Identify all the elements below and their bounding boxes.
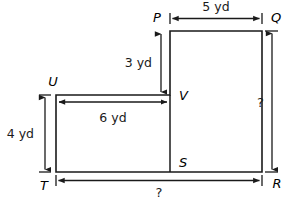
dimension-uv: 6 yd xyxy=(59,102,167,125)
dimension-label-tr: ? xyxy=(156,185,163,200)
dimension-pq: 5 yd xyxy=(170,0,262,24)
dimension-tr: ? xyxy=(56,175,262,200)
vertex-label-t: T xyxy=(40,178,49,193)
vertex-label-q: Q xyxy=(271,10,281,25)
vertex-label-p: P xyxy=(153,10,161,25)
dimension-label-pq: 5 yd xyxy=(202,0,229,14)
figure-canvas: P Q R S T U V 5 yd 3 yd 6 yd 4 xyxy=(0,0,289,202)
dimension-qr: ? xyxy=(257,31,278,172)
dimension-pv: 3 yd xyxy=(125,34,161,92)
dimension-label-uv: 6 yd xyxy=(99,110,126,125)
vertex-label-v: V xyxy=(179,88,189,103)
geometry-figure: P Q R S T U V 5 yd 3 yd 6 yd 4 xyxy=(0,0,289,202)
vertex-label-r: R xyxy=(272,176,281,191)
dimension-label-pv: 3 yd xyxy=(125,55,152,70)
vertex-label-u: U xyxy=(48,74,58,89)
vertex-label-s: S xyxy=(179,155,187,170)
dimension-ut: 4 yd xyxy=(7,95,51,172)
dimension-label-ut: 4 yd xyxy=(7,126,34,141)
dimension-label-qr: ? xyxy=(257,95,264,110)
